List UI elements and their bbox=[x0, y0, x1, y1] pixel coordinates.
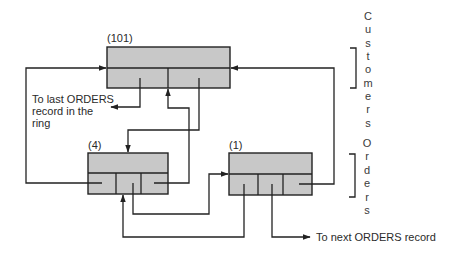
annotation-line: record in the bbox=[32, 105, 93, 117]
label-letter: r bbox=[365, 150, 369, 162]
order-record-1: (1) bbox=[229, 139, 312, 195]
annotation-last-orders: To last ORDERS record in the ring bbox=[32, 93, 114, 129]
annotation-line: To last ORDERS bbox=[32, 93, 114, 105]
label-letter: e bbox=[365, 90, 371, 102]
orders-bracket bbox=[349, 154, 355, 197]
label-letter: t bbox=[366, 50, 369, 62]
annotation-line: ring bbox=[32, 117, 50, 129]
label-letter: s bbox=[365, 37, 371, 49]
annotation-next-orders: To next ORDERS record bbox=[316, 231, 436, 243]
label-letter: O bbox=[363, 137, 372, 149]
customers-group-label: C u s t o m e r s bbox=[363, 10, 372, 129]
label-letter: d bbox=[364, 164, 370, 176]
customer-record: (101) bbox=[107, 32, 230, 88]
label-letter: s bbox=[364, 204, 370, 216]
ring-structure-diagram: (101) (4) (1) To last ORDERS record in t… bbox=[0, 0, 451, 255]
customer-record-label: (101) bbox=[107, 32, 133, 44]
label-letter: r bbox=[366, 103, 370, 115]
label-letter: r bbox=[365, 191, 369, 203]
label-letter: e bbox=[364, 177, 370, 189]
label-letter: o bbox=[365, 63, 371, 75]
order-record-1-label: (1) bbox=[229, 139, 242, 151]
label-letter: C bbox=[364, 10, 372, 22]
label-letter: s bbox=[365, 117, 371, 129]
order-record-4-label: (4) bbox=[88, 139, 101, 151]
label-letter: m bbox=[363, 77, 372, 89]
customers-bracket bbox=[350, 48, 356, 88]
label-letter: u bbox=[365, 23, 371, 35]
orders-group-label: O r d e r s bbox=[363, 137, 372, 216]
